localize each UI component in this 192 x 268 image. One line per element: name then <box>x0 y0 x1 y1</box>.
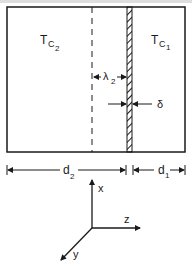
svg-text:z: z <box>124 213 130 225</box>
label-tc1: T C 1 <box>151 33 171 52</box>
d1-dimension: d 1 <box>133 163 185 180</box>
svg-text:T: T <box>40 33 48 47</box>
label-tc2: T C 2 <box>40 33 60 53</box>
svg-text:C: C <box>159 39 166 49</box>
svg-text:δ: δ <box>157 98 163 110</box>
svg-text:2: 2 <box>70 172 75 181</box>
hatched-wall <box>127 7 132 152</box>
diagram-canvas: T C 2 T C 1 λ 2 δ d 2 d 1 <box>0 0 192 268</box>
coordinate-axes: x z y <box>61 180 140 260</box>
svg-text:2: 2 <box>111 77 116 86</box>
svg-text:λ: λ <box>103 70 109 82</box>
lambda2-dimension: λ 2 <box>94 70 126 86</box>
d2-dimension: d 2 <box>7 163 126 181</box>
svg-text:d: d <box>158 163 165 177</box>
svg-text:1: 1 <box>166 43 171 52</box>
svg-text:C: C <box>48 39 55 49</box>
svg-text:x: x <box>98 182 104 194</box>
cut-off-header-text <box>0 0 192 3</box>
svg-text:2: 2 <box>55 44 60 53</box>
delta-dimension: δ <box>108 98 163 110</box>
svg-text:d: d <box>63 163 70 177</box>
region-box-outline <box>7 7 185 152</box>
svg-text:1: 1 <box>165 171 170 180</box>
svg-text:y: y <box>73 248 79 260</box>
svg-text:T: T <box>151 33 159 47</box>
